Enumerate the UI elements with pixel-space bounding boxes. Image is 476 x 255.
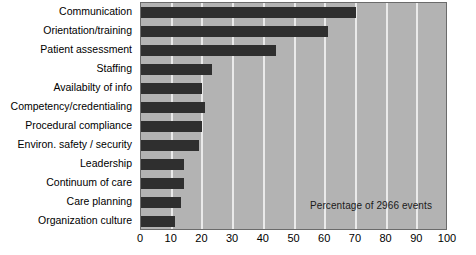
x-tick-label-10: 10	[165, 232, 177, 244]
category-label: Organization culture	[38, 215, 132, 226]
category-label: Care planning	[67, 196, 132, 207]
x-tick-label-90: 90	[410, 232, 422, 244]
bar	[141, 121, 202, 132]
category-label: Availabilty of info	[53, 82, 132, 93]
bar-row	[141, 26, 447, 37]
x-tick-label-70: 70	[349, 232, 361, 244]
category-label: Patient assessment	[40, 44, 132, 55]
x-tick-label-0: 0	[137, 232, 143, 244]
category-label: Competency/credentialing	[11, 101, 132, 112]
category-label: Communication	[59, 6, 132, 17]
category-label: Continuum of care	[46, 177, 132, 188]
bar	[141, 26, 328, 37]
category-label: Orientation/training	[43, 25, 132, 36]
bar-row	[141, 159, 447, 170]
category-label: Leadership	[80, 158, 132, 169]
bar-series	[141, 3, 446, 229]
bar-row	[141, 7, 447, 18]
plot-area: Percentage of 2966 events	[140, 2, 447, 230]
x-tick-label-80: 80	[379, 232, 391, 244]
value-axis: 0102030405060708090100	[140, 232, 447, 252]
x-tick-label-40: 40	[257, 232, 269, 244]
plot-annotation: Percentage of 2966 events	[310, 200, 432, 211]
bar	[141, 102, 205, 113]
bar	[141, 159, 184, 170]
x-tick-label-20: 20	[195, 232, 207, 244]
bar	[141, 178, 184, 189]
bar	[141, 216, 175, 227]
bar-row	[141, 102, 447, 113]
bar-row	[141, 45, 447, 56]
x-tick-label-30: 30	[226, 232, 238, 244]
bar	[141, 197, 181, 208]
bar-row	[141, 178, 447, 189]
bar-row	[141, 121, 447, 132]
chart-screenshot: CommunicationOrientation/trainingPatient…	[0, 0, 476, 255]
x-tick-label-60: 60	[318, 232, 330, 244]
category-label: Staffing	[97, 63, 132, 74]
category-axis-labels: CommunicationOrientation/trainingPatient…	[0, 2, 136, 230]
category-label: Environ. safety / security	[18, 139, 132, 150]
category-label: Procedural compliance	[25, 120, 132, 131]
x-tick-label-50: 50	[287, 232, 299, 244]
bar	[141, 83, 202, 94]
bar-row	[141, 216, 447, 227]
x-tick-label-100: 100	[438, 232, 456, 244]
bar	[141, 64, 212, 75]
bar-row	[141, 83, 447, 94]
bar	[141, 45, 276, 56]
bar	[141, 140, 199, 151]
bar	[141, 7, 356, 18]
bar-row	[141, 64, 447, 75]
bar-row	[141, 140, 447, 151]
